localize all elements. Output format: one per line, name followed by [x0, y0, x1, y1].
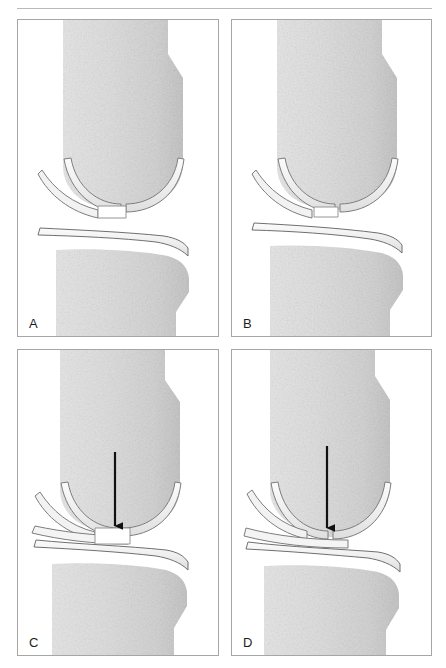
panel-a-label: A	[29, 317, 38, 330]
panel-a[interactable]: A	[17, 19, 219, 337]
figure-root: A	[0, 0, 446, 668]
panel-d-label: D	[243, 636, 253, 649]
tibia-bone	[264, 565, 399, 655]
femur-bone	[277, 20, 397, 210]
panel-b-illustration	[232, 20, 431, 336]
panel-d[interactable]: D	[231, 349, 432, 656]
panel-c[interactable]: C	[17, 349, 219, 656]
tibia-bone	[56, 249, 189, 336]
panel-b-label: B	[243, 317, 252, 330]
cartilage-defect	[98, 206, 126, 218]
tibia-bone	[52, 563, 187, 655]
panel-a-illustration	[18, 20, 218, 336]
panel-b[interactable]: B	[231, 19, 432, 337]
cartilage-defect	[314, 207, 338, 217]
femur-bone	[63, 20, 183, 210]
panel-c-label: C	[29, 636, 39, 649]
cartilage-defect	[95, 528, 130, 544]
panel-c-illustration	[18, 350, 218, 655]
panel-grid: A	[0, 0, 446, 668]
tibia-bone	[270, 245, 403, 336]
panel-d-illustration	[232, 350, 431, 655]
